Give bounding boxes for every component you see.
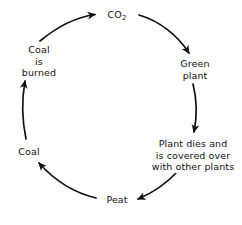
co2-subscript: 2	[122, 14, 127, 22]
node-label-peat: Peat	[100, 194, 134, 206]
node-label-plant-dies-line2: is covered over	[146, 150, 240, 162]
arrow-plant-dies-to-peat	[138, 171, 178, 199]
node-label-coal: Coal	[12, 146, 46, 158]
node-label-green-plant-line2: plant	[172, 70, 218, 82]
arrow-coal-to-coal-burned	[23, 81, 26, 139]
node-label-coal-is-burned-line3: burned	[13, 67, 65, 79]
node-label-co2: CO2	[99, 9, 135, 23]
node-label-coal-line1: Coal	[12, 146, 46, 158]
node-label-plant-dies-line1: Plant dies and	[146, 138, 240, 150]
node-label-plant-dies: Plant dies and is covered over with othe…	[146, 138, 240, 173]
node-label-peat-line1: Peat	[100, 194, 134, 206]
arrow-peat-to-coal	[39, 163, 96, 198]
arrow-green-plant-to-plant-dies	[193, 84, 196, 132]
node-label-co2-text: CO2	[99, 9, 135, 23]
arrow-co2-to-green-plant	[139, 15, 189, 53]
node-label-green-plant-line1: Green	[172, 58, 218, 70]
node-label-coal-is-burned: Coal is burned	[13, 44, 65, 79]
cycle-arrows-svg	[0, 0, 242, 225]
node-label-plant-dies-line3: with other plants	[146, 161, 240, 173]
node-label-coal-is-burned-line1: Coal	[13, 44, 65, 56]
carbon-cycle-diagram: CO2 Green plant Plant dies and is covere…	[0, 0, 242, 225]
node-label-coal-is-burned-line2: is	[13, 56, 65, 68]
arrow-coal-burned-to-co2	[40, 15, 95, 42]
node-label-green-plant: Green plant	[172, 58, 218, 81]
